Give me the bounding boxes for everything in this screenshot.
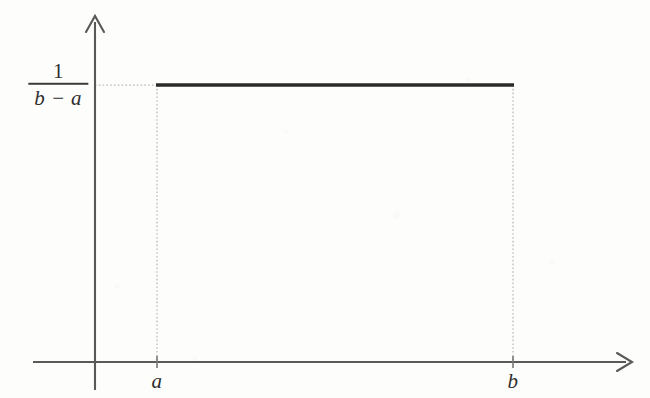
plot-canvas bbox=[0, 0, 650, 398]
fraction-numerator: 1 bbox=[47, 60, 70, 83]
uniform-distribution-figure: 1 b − a a b bbox=[0, 0, 650, 398]
fraction-denominator: b − a bbox=[28, 85, 88, 111]
tick-label-a: a bbox=[152, 369, 163, 394]
y-axis-value-label: 1 b − a bbox=[28, 60, 88, 110]
tick-label-b: b bbox=[508, 369, 519, 394]
